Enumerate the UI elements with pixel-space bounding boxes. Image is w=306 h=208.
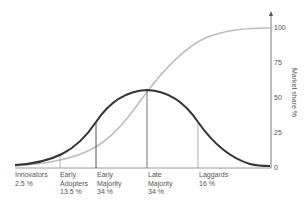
label-early-adopters-name-2: Adopters xyxy=(60,180,88,189)
label-laggards-share: 16 % xyxy=(199,180,228,189)
label-innovators: Innovators 2.5 % xyxy=(15,171,48,188)
label-late-majority-name-2: Majority xyxy=(148,180,173,189)
label-innovators-name: Innovators xyxy=(15,171,48,180)
y-tick-0: 0 xyxy=(274,164,278,171)
y-tick-50: 50 xyxy=(274,94,282,101)
label-early-majority-share: 34 % xyxy=(97,188,122,197)
y-tick-25: 25 xyxy=(274,129,282,136)
label-early-majority-name-2: Majority xyxy=(97,180,122,189)
y-tick-75: 75 xyxy=(274,59,282,66)
label-late-majority-name-1: Late xyxy=(148,171,173,180)
label-laggards-name: Laggards xyxy=(199,171,228,180)
label-early-adopters-share: 13.5 % xyxy=(60,188,88,197)
y-tick-100: 100 xyxy=(274,24,286,31)
label-early-majority-name-1: Early xyxy=(97,171,122,180)
label-early-adopters: Early Adopters 13.5 % xyxy=(60,171,88,197)
label-laggards: Laggards 16 % xyxy=(199,171,228,188)
label-late-majority: Late Majority 34 % xyxy=(148,171,173,197)
market-share-s-curve xyxy=(15,28,271,166)
label-early-adopters-name-1: Early xyxy=(60,171,88,180)
y-axis-title: Market share % xyxy=(291,68,298,117)
label-early-majority: Early Majority 34 % xyxy=(97,171,122,197)
adoption-bell-curve xyxy=(15,90,270,166)
label-innovators-share: 2.5 % xyxy=(15,180,48,189)
label-late-majority-share: 34 % xyxy=(148,188,173,197)
y-axis-arrow-icon xyxy=(269,11,273,16)
